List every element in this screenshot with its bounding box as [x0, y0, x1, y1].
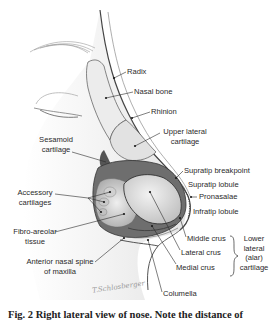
label-sesamoid-line1: Sesamoid [36, 135, 76, 145]
label-upper-lateral-line1: Upper lateral [160, 127, 210, 137]
label-supratip-breakpoint: Supratip breakpoint [184, 166, 250, 176]
label-lower-lateral-line2: lateral [236, 244, 272, 254]
label-supratip-lobule: Supratip lobule [188, 180, 239, 190]
label-upper-lateral-cartilage: Upper lateral cartilage [160, 127, 210, 146]
label-accessory-line2: cartilages [14, 198, 56, 208]
label-columella: Columella [163, 289, 197, 299]
label-lower-lateral-line1: Lower [236, 234, 272, 244]
label-ans-line1: Anterior nasal spine [22, 257, 98, 267]
label-fibro-line2: tissue [12, 237, 58, 247]
label-anterior-nasal-spine: Anterior nasal spine of maxilla [22, 257, 98, 276]
label-sesamoid-cartilage: Sesamoid cartilage [36, 135, 76, 154]
label-accessory-cartilages: Accessory cartilages [14, 188, 56, 207]
label-accessory-line1: Accessory [14, 188, 56, 198]
label-sesamoid-line2: cartilage [36, 145, 76, 155]
label-lower-lateral-cartilage: Lower lateral (alar) cartilage [236, 234, 272, 272]
label-rhinion: Rhinion [151, 107, 177, 117]
label-fibro-line1: Fibro-areolar [12, 227, 58, 237]
label-middle-crus: Middle crus [187, 234, 226, 244]
eyebrow [30, 42, 95, 53]
label-lower-lateral-line3: (alar) [236, 253, 272, 263]
label-radix: Radix [127, 67, 146, 77]
label-infratip-lobule: Infratip lobule [193, 207, 239, 217]
label-ans-line2: of maxilla [22, 267, 98, 277]
label-fibro-areolar-tissue: Fibro-areolar tissue [12, 227, 58, 246]
label-pronasalae: Pronasalae [199, 192, 237, 202]
label-medial-crus: Medial crus [176, 263, 215, 273]
label-lateral-crus: Lateral crus [181, 248, 221, 258]
label-nasal-bone: Nasal bone [134, 87, 172, 97]
label-upper-lateral-line2: cartilage [160, 137, 210, 147]
figure-caption: Fig. 2 Right lateral view of nose. Note … [8, 309, 243, 320]
label-lower-lateral-line4: cartilage [236, 263, 272, 273]
